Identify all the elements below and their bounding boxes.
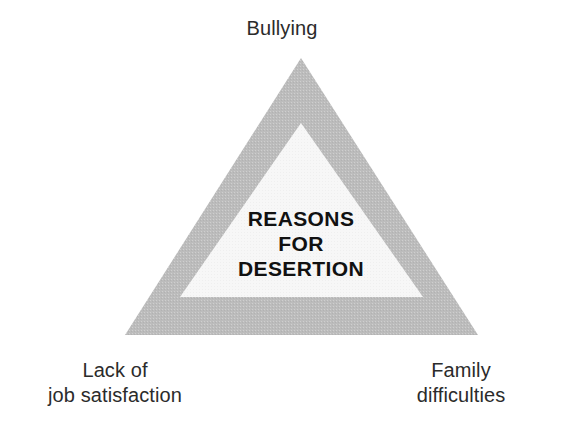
vertex-label-top-line-1: Bullying [0,16,564,41]
vertex-label-bottom-right-line-2: difficulties [366,383,556,408]
center-title: REASONS FOR DESERTION [238,206,364,281]
vertex-label-top: Bullying [0,16,564,41]
vertex-label-bottom-right-line-1: Family [366,358,556,383]
vertex-label-bottom-right: Family difficulties [366,358,556,408]
vertex-label-bottom-left-line-1: Lack of [0,358,230,383]
center-title-line-2: FOR [238,231,364,256]
center-title-line-3: DESERTION [238,256,364,281]
diagram-page: Bullying REASONS FOR DESERTION Lack of j… [0,0,564,431]
vertex-label-bottom-left: Lack of job satisfaction [0,358,230,408]
center-title-line-1: REASONS [238,206,364,231]
vertex-label-bottom-left-line-2: job satisfaction [0,383,230,408]
